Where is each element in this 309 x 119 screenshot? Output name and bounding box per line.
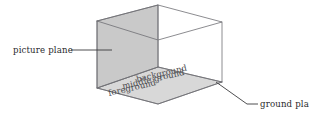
- label-picture-plane: picture plane: [13, 45, 73, 55]
- label-ground-plane: ground plane: [260, 99, 309, 109]
- diagram-canvas: picture plane ground plane background mi…: [0, 0, 309, 119]
- ground-plane-leader-line: [216, 82, 258, 104]
- perspective-box-figure: picture plane ground plane background mi…: [0, 0, 309, 119]
